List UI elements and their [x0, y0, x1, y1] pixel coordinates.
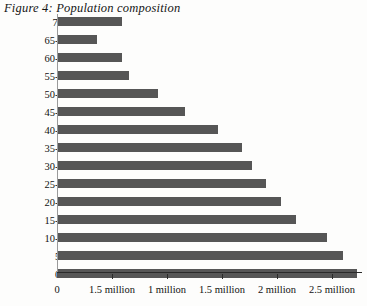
bar-row: 50-54 — [0, 86, 367, 104]
x-axis-tick — [277, 274, 278, 279]
figure-population-composition: Figure 4: Population composition 70+65-6… — [0, 0, 367, 306]
bar-row: 15-19 — [0, 212, 367, 230]
bar-row: 45-49 — [0, 104, 367, 122]
x-axis-tick — [222, 274, 223, 279]
bar — [57, 107, 185, 116]
bar — [57, 269, 357, 278]
bar-row: 0-4 — [0, 266, 367, 284]
bar — [57, 35, 97, 44]
bar — [57, 71, 129, 80]
bar-row: 70+ — [0, 14, 367, 32]
x-axis-tick-label: 1.5 million — [89, 284, 135, 295]
bar — [57, 17, 122, 26]
bar — [57, 197, 281, 206]
bar-row: 55-59 — [0, 68, 367, 86]
x-axis-tick-label: 2 million — [258, 284, 296, 295]
bar — [57, 251, 343, 260]
bar-row: 35-39 — [0, 140, 367, 158]
bar — [57, 179, 266, 188]
bar — [57, 215, 296, 224]
bar — [57, 143, 242, 152]
x-axis-tick — [167, 274, 168, 279]
y-axis-line — [57, 14, 58, 273]
bar-row: 20-24 — [0, 194, 367, 212]
bar-row: 5-9 — [0, 248, 367, 266]
bar-row: 30-34 — [0, 158, 367, 176]
x-axis-tick-label: 2.5 million — [309, 284, 355, 295]
bar — [57, 89, 158, 98]
bar — [57, 233, 327, 242]
bar-chart-plot-area: 70+65-6960-6455-5950-5445-4940-4435-3930… — [0, 14, 367, 272]
bar — [57, 161, 252, 170]
bar-row: 25-29 — [0, 176, 367, 194]
x-axis-tick — [332, 274, 333, 279]
bar — [57, 53, 122, 62]
bar-row: 65-69 — [0, 32, 367, 50]
bar-row: 60-64 — [0, 50, 367, 68]
x-axis-tick-label: 1 million — [148, 284, 186, 295]
x-axis-tick-label: 0 — [54, 284, 59, 295]
bar-row: 40-44 — [0, 122, 367, 140]
x-axis-tick — [112, 274, 113, 279]
x-axis-tick-label: 1.5 million — [199, 284, 245, 295]
bar — [57, 125, 218, 134]
x-axis-line — [57, 272, 362, 273]
bar-row: 10-14 — [0, 230, 367, 248]
